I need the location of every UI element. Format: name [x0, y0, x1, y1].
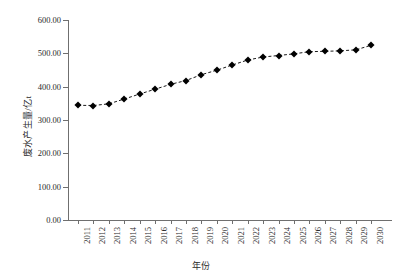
- x-tick-label: 2027: [328, 227, 338, 244]
- x-tick-label: 2011: [82, 227, 92, 244]
- x-tick: [78, 220, 79, 224]
- y-tick-label: 300.00: [38, 115, 61, 125]
- x-tick: [140, 220, 141, 224]
- x-tick: [325, 220, 326, 224]
- y-tick-label: 100.00: [38, 182, 61, 192]
- x-tick-label: 2028: [344, 227, 354, 244]
- x-tick: [109, 220, 110, 224]
- x-tick-label: 2019: [205, 227, 215, 244]
- x-tick: [171, 220, 172, 224]
- x-tick: [124, 220, 125, 224]
- x-tick-label: 2025: [298, 227, 308, 244]
- y-tick-label: 0.00: [46, 215, 61, 225]
- x-tick: [217, 220, 218, 224]
- x-tick-label: 2012: [97, 227, 107, 244]
- x-tick: [201, 220, 202, 224]
- x-tick: [371, 220, 372, 224]
- x-tick: [232, 220, 233, 224]
- x-tick-label: 2018: [190, 227, 200, 244]
- x-tick-label: 2026: [313, 227, 323, 244]
- x-tick: [356, 220, 357, 224]
- y-tick-label: 600.00: [38, 15, 61, 25]
- x-tick-label: 2017: [174, 227, 184, 244]
- y-axis-title: 废水产生量/亿t: [21, 67, 34, 187]
- x-axis-line: [68, 220, 392, 221]
- x-tick-label: 2022: [251, 227, 261, 244]
- x-axis-title: 年份: [0, 259, 402, 272]
- x-tick-label: 2021: [236, 227, 246, 244]
- x-tick: [248, 220, 249, 224]
- y-tick-label: 200.00: [38, 148, 61, 158]
- x-tick-label: 2029: [359, 227, 369, 244]
- x-tick: [155, 220, 156, 224]
- x-tick: [294, 220, 295, 224]
- x-tick-label: 2030: [375, 227, 385, 244]
- x-tick-label: 2014: [128, 227, 138, 244]
- x-tick: [340, 220, 341, 224]
- chart-container: 废水产生量/亿t 年份 0.00100.00200.00300.00400.00…: [0, 0, 402, 280]
- x-tick-label: 2016: [159, 227, 169, 244]
- x-tick: [186, 220, 187, 224]
- x-tick: [309, 220, 310, 224]
- y-tick: [63, 220, 68, 221]
- x-tick-label: 2020: [220, 227, 230, 244]
- plot-area: 0.00100.00200.00300.00400.00500.00600.00…: [68, 20, 392, 220]
- x-tick-label: 2023: [267, 227, 277, 244]
- x-tick: [93, 220, 94, 224]
- x-tick-label: 2015: [143, 227, 153, 244]
- y-tick-label: 400.00: [38, 82, 61, 92]
- x-tick-label: 2024: [282, 227, 292, 244]
- x-tick-label: 2013: [112, 227, 122, 244]
- x-tick: [263, 220, 264, 224]
- x-tick: [279, 220, 280, 224]
- y-tick-label: 500.00: [38, 48, 61, 58]
